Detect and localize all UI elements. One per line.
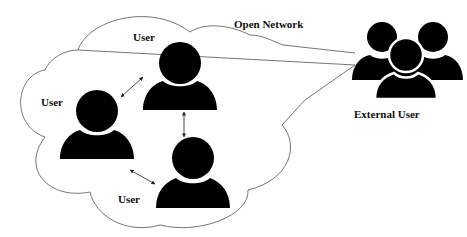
- network-diagram: Open Network User User User External Use…: [0, 0, 467, 237]
- user-icon-bottom: [156, 137, 230, 208]
- user-icon-left: [60, 90, 134, 159]
- user-label-top: User: [133, 31, 155, 43]
- user-icon-top: [143, 42, 217, 110]
- link-left-top: [121, 77, 143, 97]
- open-network-label: Open Network: [234, 18, 304, 30]
- external-users-icon: [352, 22, 463, 99]
- user-label-left: User: [41, 96, 63, 108]
- user-label-bottom: User: [118, 193, 140, 205]
- link-left-bottom: [130, 170, 155, 184]
- external-user-label: External User: [354, 108, 420, 120]
